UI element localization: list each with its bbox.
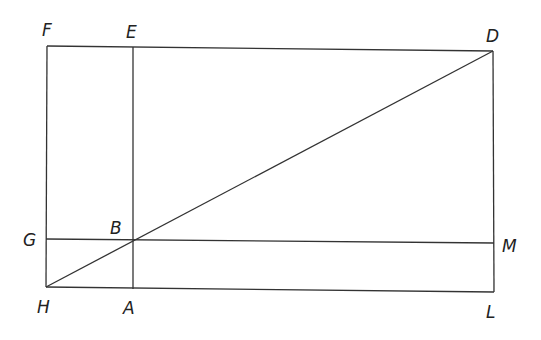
label-F: F [42, 20, 52, 40]
segment-HL [46, 287, 494, 292]
segment-DL [493, 51, 494, 292]
segment-FH [46, 46, 47, 287]
segment-FD [47, 46, 493, 51]
label-D: D [486, 26, 499, 46]
label-A: A [122, 298, 135, 318]
label-G: G [23, 230, 36, 250]
diagonal-HD [46, 51, 493, 287]
label-M: M [502, 236, 517, 256]
geometry-diagram: F E D G B M H A L [0, 0, 541, 340]
segment-GM [46, 239, 494, 243]
label-L: L [486, 302, 495, 322]
label-E: E [126, 22, 137, 42]
label-H: H [37, 297, 50, 317]
label-B: B [110, 218, 122, 238]
